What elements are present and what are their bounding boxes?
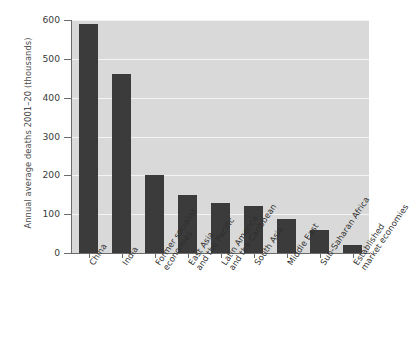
y-axis-tick-label: 600 (42, 14, 60, 25)
bar (112, 74, 130, 253)
y-axis-tick-label: 0 (54, 247, 60, 258)
y-axis-tick-label: 100 (42, 208, 60, 219)
y-axis-tick (64, 253, 71, 254)
y-axis-tick-label: 500 (42, 53, 60, 64)
y-axis-tick (64, 214, 71, 215)
y-axis-title: Annual average deaths 2001–20 (thousands… (23, 13, 33, 253)
gridline (72, 59, 369, 60)
y-axis-tick (64, 59, 71, 60)
gridline (72, 20, 369, 21)
y-axis-tick-label: 400 (42, 92, 60, 103)
bar (145, 175, 163, 253)
y-axis-tick-label: 200 (42, 169, 60, 180)
y-axis-tick (64, 98, 71, 99)
y-axis-tick (64, 175, 71, 176)
y-axis-tick-label: 300 (42, 131, 60, 142)
bar (79, 24, 97, 253)
y-axis-tick (64, 137, 71, 138)
y-axis-tick (64, 20, 71, 21)
